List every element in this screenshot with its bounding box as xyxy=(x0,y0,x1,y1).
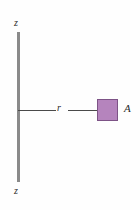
radius-label: r xyxy=(57,103,61,113)
radius-line-segment-left xyxy=(18,110,56,111)
z-axis-line xyxy=(17,32,20,182)
area-element-square xyxy=(97,99,118,121)
z-axis-label-top: z xyxy=(14,18,18,28)
area-element-label: A xyxy=(124,103,131,114)
physics-diagram-figure: z z r A xyxy=(0,0,140,210)
z-axis-label-bottom: z xyxy=(14,186,18,196)
